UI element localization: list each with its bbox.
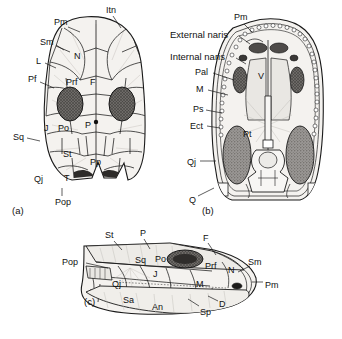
label-p: P	[85, 121, 91, 130]
panel-c-lateral	[81, 243, 256, 314]
label-n: N	[74, 52, 81, 61]
label-m: M	[196, 85, 204, 94]
label-d: D	[219, 300, 226, 309]
panel-b-palate	[212, 19, 323, 200]
label-qj: Qj	[187, 158, 196, 167]
label-sq: Sq	[135, 256, 146, 265]
label-pop: Pop	[55, 198, 71, 207]
label-prf: Prf	[205, 262, 217, 271]
label-v: V	[258, 72, 264, 81]
label-p: P	[140, 229, 146, 238]
label-sm: Sm	[40, 38, 54, 47]
label-pt: Pt	[243, 130, 252, 139]
label-prf: Prf	[66, 78, 78, 87]
label-st: St	[105, 231, 114, 240]
label-m: M	[196, 280, 204, 289]
label-po: Po	[58, 124, 69, 133]
label-qj: Qj	[112, 280, 121, 289]
label-an: An	[152, 303, 163, 312]
label-itn: Itn	[106, 6, 116, 15]
leader-q	[198, 188, 214, 196]
label-sq: Sq	[13, 133, 24, 142]
label-po: Po	[155, 255, 166, 264]
leader-sq	[27, 138, 40, 141]
label-pop: Pop	[62, 258, 78, 267]
panel-b-caption: (b)	[202, 205, 214, 216]
label-sp: Sp	[200, 308, 211, 317]
label-f: F	[203, 234, 209, 243]
label-internal-naris: Internal naris	[170, 52, 225, 61]
label-sm: Sm	[248, 258, 262, 267]
label-pm: Pm	[265, 281, 279, 290]
label-t: T	[64, 174, 70, 183]
label-ect: Ect	[190, 122, 203, 131]
panel-a-caption: (a)	[12, 205, 24, 216]
label-st: St	[63, 150, 72, 159]
label-pm: Pm	[234, 13, 248, 22]
label-pf: Pf	[28, 75, 37, 84]
panel-c-caption: (c)	[84, 296, 95, 307]
label-pal: Pal	[195, 68, 208, 77]
panel-a-dorsal-skull	[44, 17, 146, 180]
label-n: N	[228, 266, 235, 275]
label-pm: Pm	[54, 18, 68, 27]
label-pp: Pp	[90, 158, 101, 167]
label-j: J	[153, 270, 158, 279]
figure-skull-anatomy: ItnPmSmLPfPrfNFSqJPoPStPpTQjPopPmExterna…	[0, 0, 342, 339]
label-qj: Qj	[34, 175, 43, 184]
label-j: J	[44, 124, 49, 133]
label-q: Q	[189, 196, 196, 205]
label-ps: Ps	[193, 105, 204, 114]
label-sa: Sa	[123, 296, 134, 305]
label-f: F	[90, 78, 96, 87]
label-external-naris: External naris	[170, 30, 228, 39]
label-l: L	[36, 57, 41, 66]
